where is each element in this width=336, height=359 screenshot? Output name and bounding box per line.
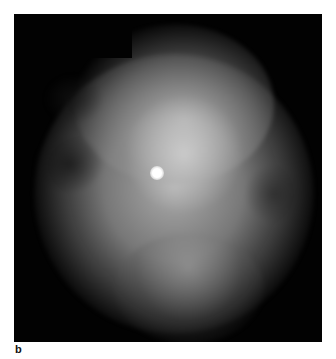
nebula-bright-core bbox=[124, 94, 244, 214]
mosaic-gap bbox=[14, 14, 132, 58]
nebula-cloud bbox=[14, 14, 322, 342]
dark-lane-right bbox=[244, 164, 304, 224]
dark-lane-upper-left bbox=[44, 74, 104, 124]
central-star bbox=[150, 166, 164, 180]
panel-label: b bbox=[15, 343, 22, 355]
dark-lane-left bbox=[34, 134, 104, 194]
nebula-lower-plume bbox=[114, 234, 264, 342]
nebula-photograph bbox=[14, 14, 322, 342]
